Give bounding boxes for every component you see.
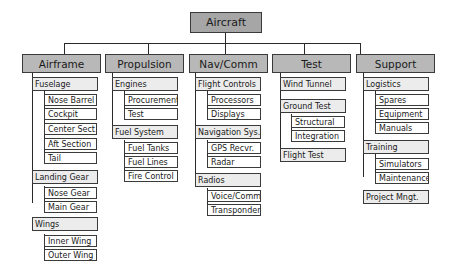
node-manuals: Manuals [375, 122, 429, 134]
node-gps-recvr: GPS Recvr. [207, 142, 261, 154]
node-landing-gear: Landing Gear [32, 170, 98, 184]
node-fuel-tanks: Fuel Tanks [124, 142, 178, 154]
node-test: Test [272, 54, 351, 73]
node-navigation-sys: Navigation Sys. [195, 125, 261, 139]
node-engine-test: Test [124, 108, 178, 120]
node-fuel-lines: Fuel Lines [124, 156, 178, 168]
node-maintenance: Maintenance [375, 172, 429, 184]
node-transponder: Transponder [207, 204, 261, 216]
node-spares: Spares [375, 94, 429, 106]
node-wings: Wings [32, 217, 98, 231]
node-wind-tunnel: Wind Tunnel [280, 77, 346, 91]
connector-level1-bar [64, 43, 360, 44]
node-flight-test: Flight Test [280, 148, 346, 162]
node-processors: Processors [207, 94, 261, 106]
node-flight-controls: Flight Controls [195, 77, 261, 91]
node-center-sect: Center Sect. [44, 123, 97, 135]
node-outer-wing: Outer Wing [44, 249, 97, 261]
node-integration: Integration [291, 130, 345, 142]
node-logistics: Logistics [363, 77, 429, 91]
node-simulators: Simulators [375, 158, 429, 170]
node-radios: Radios [195, 173, 261, 187]
node-fuel-system: Fuel System [112, 125, 178, 139]
node-procurement: Procurement [124, 94, 178, 106]
node-ground-test: Ground Test [280, 99, 346, 113]
node-airframe: Airframe [22, 54, 101, 73]
node-aircraft: Aircraft [190, 12, 262, 33]
node-engines: Engines [112, 77, 178, 91]
node-project-mngt: Project Mngt. [363, 190, 429, 204]
node-inner-wing: Inner Wing [44, 235, 97, 247]
node-nose-gear: Nose Gear [44, 187, 97, 199]
node-structural: Structural [291, 116, 345, 128]
node-radar: Radar [207, 156, 261, 168]
node-tail: Tail [44, 152, 97, 164]
node-support: Support [356, 54, 435, 73]
node-aft-section: Aft Section [44, 138, 97, 150]
node-cockpit: Cockpit [44, 108, 97, 120]
node-navcomm: Nav/Comm [189, 54, 268, 73]
node-voice-comm: Voice/Comm. [207, 190, 261, 202]
node-training: Training [363, 140, 429, 154]
node-nose-barrel: Nose Barrel [44, 94, 97, 106]
node-fuselage: Fuselage [32, 77, 98, 91]
node-propulsion: Propulsion [105, 54, 184, 73]
node-fire-control: Fire Control [124, 170, 178, 182]
node-main-gear: Main Gear [44, 201, 97, 213]
node-equipment: Equipment [375, 108, 429, 120]
node-displays: Displays [207, 108, 261, 120]
